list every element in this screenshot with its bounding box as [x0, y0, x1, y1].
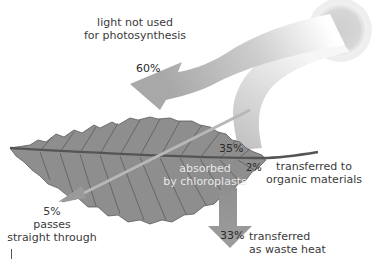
organic-label-line1: transferred to [258, 160, 370, 173]
absorbed-label-line2: by chloroplasts [150, 175, 260, 188]
passes-through-label: 5% passes straight through [2, 205, 102, 244]
absorbed-label-line1: absorbed [150, 162, 260, 175]
absorbed-percent: 35% [219, 143, 243, 155]
passes-through-label-line1: passes [2, 218, 102, 231]
light-energy-leaf-diagram: light not used for photosynthesis 60% 35… [0, 0, 372, 260]
passes-through-label-line2: straight through [2, 231, 102, 244]
text-cursor [11, 249, 12, 259]
waste-heat-label-line1: transferred [249, 230, 326, 243]
unused-light-label-line2: for photosynthesis [80, 29, 190, 42]
unused-light-label-line1: light not used [80, 16, 190, 29]
unused-light-percent: 60% [136, 63, 160, 75]
absorbed-label: absorbed by chloroplasts [150, 162, 260, 188]
unused-light-label: light not used for photosynthesis [80, 16, 190, 42]
passes-through-percent: 5% [2, 205, 102, 218]
waste-heat-label: transferred as waste heat [249, 230, 326, 256]
organic-label-line2: organic materials [258, 173, 370, 186]
organic-label: transferred to organic materials [258, 160, 370, 186]
waste-heat-percent: 33% [220, 230, 244, 242]
waste-heat-label-line2: as waste heat [249, 243, 326, 256]
